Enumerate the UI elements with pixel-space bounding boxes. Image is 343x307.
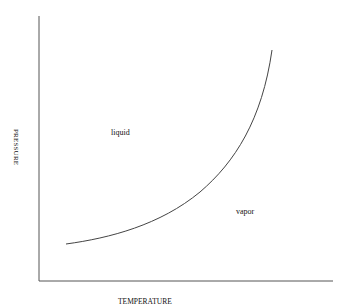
region-label-vapor: vapor xyxy=(236,207,254,216)
diagram-graphics xyxy=(0,0,343,307)
phase-diagram: PRESSURE TEMPERATURE liquid vapor xyxy=(0,0,343,307)
region-label-liquid: liquid xyxy=(111,128,130,137)
y-axis-label: PRESSURE xyxy=(12,129,20,165)
x-axis-label: TEMPERATURE xyxy=(118,297,172,306)
